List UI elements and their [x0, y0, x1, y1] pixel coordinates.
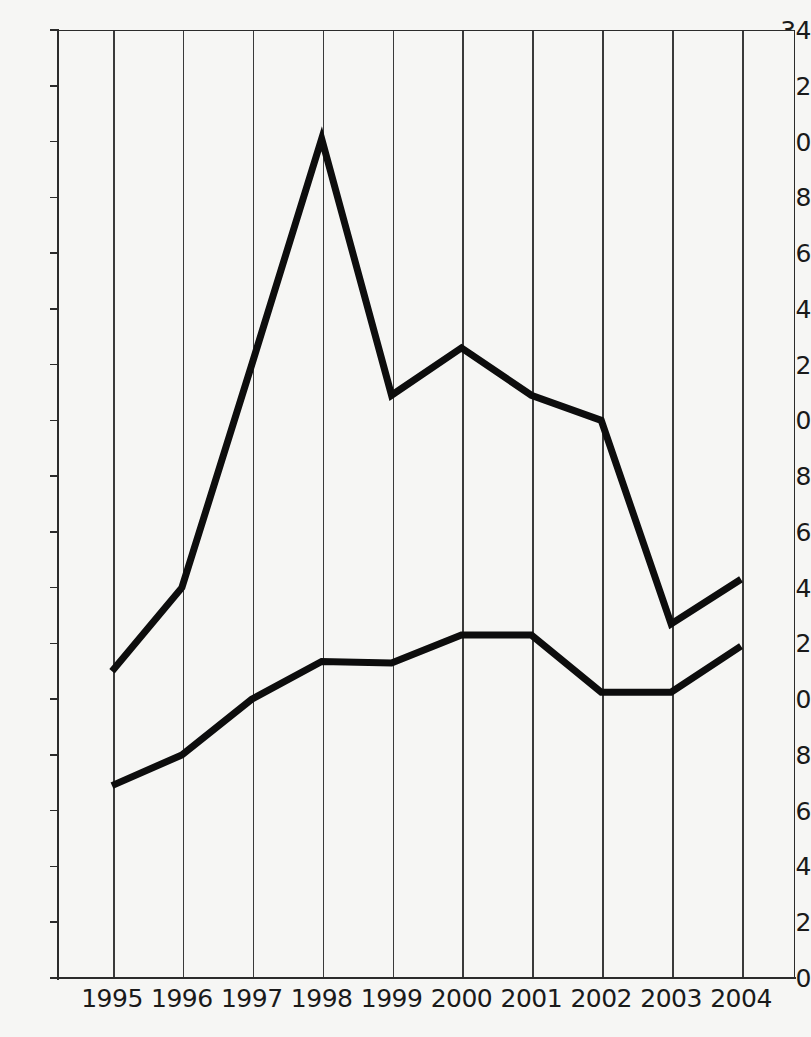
gridline-vertical — [742, 31, 744, 977]
gridline-vertical — [113, 31, 115, 977]
gridline-vertical — [183, 31, 185, 977]
x-axis-tick-label: 2004 — [696, 986, 786, 1011]
plot-area — [58, 30, 795, 978]
gridline-vertical — [672, 31, 674, 977]
chart-page: 0246810121416182022242628303234 19951996… — [0, 0, 811, 1037]
gridline-vertical — [462, 31, 464, 977]
gridlines — [59, 31, 794, 977]
gridline-vertical — [323, 31, 325, 977]
gridline-vertical — [393, 31, 395, 977]
gridline-vertical — [602, 31, 604, 977]
gridline-vertical — [253, 31, 255, 977]
gridline-vertical — [532, 31, 534, 977]
x-axis-line — [57, 977, 796, 979]
